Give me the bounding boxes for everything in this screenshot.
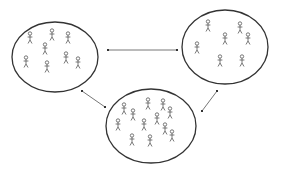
- connection-arrow-bottom-right: [202, 91, 217, 111]
- person-icon: [116, 119, 121, 131]
- groups-layer: [12, 10, 268, 163]
- person-icon: [45, 61, 50, 73]
- person-icon: [142, 119, 147, 131]
- person-icon: [240, 55, 245, 67]
- person-icon: [168, 107, 173, 119]
- group-circle: [106, 89, 196, 163]
- person-icon: [195, 42, 200, 54]
- person-icon: [218, 55, 223, 67]
- person-icon: [163, 123, 168, 135]
- person-icon: [238, 22, 243, 34]
- person-icon: [28, 32, 33, 44]
- person-icon: [170, 130, 175, 142]
- person-icon: [155, 113, 160, 125]
- person-icon: [24, 56, 29, 68]
- person-icon: [206, 20, 211, 32]
- group-right: [182, 10, 268, 84]
- person-icon: [146, 98, 151, 110]
- group-bottom: [106, 89, 196, 163]
- person-icon: [66, 32, 71, 44]
- person-icon: [130, 134, 135, 146]
- person-icon: [64, 52, 69, 64]
- person-icon: [148, 135, 153, 147]
- person-icon: [131, 109, 136, 121]
- person-icon: [246, 33, 251, 45]
- person-icon: [161, 99, 166, 111]
- person-icon: [223, 33, 228, 45]
- connection-arrow-left-bottom: [82, 91, 105, 107]
- network-diagram: [0, 0, 284, 172]
- person-icon: [76, 57, 81, 69]
- person-icon: [122, 103, 127, 115]
- person-icon: [43, 43, 48, 55]
- connections-layer: [82, 50, 217, 111]
- group-circle: [12, 22, 98, 92]
- group-left: [12, 22, 98, 92]
- person-icon: [50, 29, 55, 41]
